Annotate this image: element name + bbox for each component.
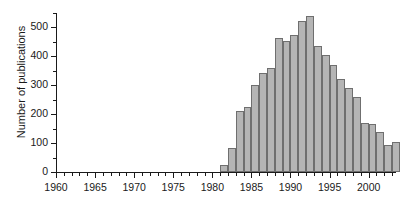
bar (267, 68, 275, 172)
x-tick-minor (126, 173, 127, 176)
x-tick-minor (220, 173, 221, 176)
x-tick-minor (361, 173, 362, 176)
x-tick-minor (228, 173, 229, 176)
y-tick-label: 100 (14, 137, 48, 148)
bar (275, 38, 283, 172)
x-tick-minor (267, 173, 268, 176)
x-tick-label: 1975 (162, 181, 185, 193)
y-tick-label: 200 (14, 108, 48, 119)
bar (314, 46, 322, 172)
x-tick-minor (189, 173, 190, 176)
x-tick-minor (283, 173, 284, 176)
x-tick-minor (103, 173, 104, 176)
x-tick-minor (345, 173, 346, 176)
bar (259, 73, 267, 172)
bar (353, 97, 361, 172)
y-tick-label: 400 (14, 50, 48, 61)
x-tick-minor (165, 173, 166, 176)
x-tick-minor (314, 173, 315, 176)
x-tick-minor (150, 173, 151, 176)
x-tick-minor (275, 173, 276, 176)
x-tick-minor (181, 173, 182, 176)
x-tick-minor (306, 173, 307, 176)
bar (283, 41, 291, 172)
bar (244, 107, 252, 172)
y-tick-label: 300 (14, 79, 48, 90)
bar (330, 65, 338, 172)
x-tick-minor (158, 173, 159, 176)
x-tick-minor (111, 173, 112, 176)
x-tick-label: 1985 (240, 181, 263, 193)
y-tick-label: 0 (14, 166, 48, 177)
x-tick-minor (64, 173, 65, 176)
x-tick-minor (87, 173, 88, 176)
x-tick-minor (244, 173, 245, 176)
y-tick-label: 500 (14, 21, 48, 32)
x-tick-minor (384, 173, 385, 176)
x-tick-minor (236, 173, 237, 176)
x-tick-major (173, 173, 174, 178)
x-tick-minor (205, 173, 206, 176)
x-tick-label: 1980 (201, 181, 224, 193)
x-tick-major (134, 173, 135, 178)
publications-bar-chart: Number of publications 0100200300400500 … (0, 0, 403, 202)
x-tick-major (212, 173, 213, 178)
bar (298, 21, 306, 172)
x-tick-major (290, 173, 291, 178)
x-tick-major (251, 173, 252, 178)
x-tick-label: 1990 (279, 181, 302, 193)
bar (290, 35, 298, 172)
x-tick-major (56, 173, 57, 178)
x-tick-minor (298, 173, 299, 176)
x-tick-minor (259, 173, 260, 176)
x-tick-minor (376, 173, 377, 176)
bar (384, 145, 392, 172)
x-tick-minor (392, 173, 393, 176)
bar (392, 142, 400, 172)
x-tick-label: 2000 (357, 181, 380, 193)
bar (220, 165, 228, 172)
x-tick-minor (337, 173, 338, 176)
x-tick-major (330, 173, 331, 178)
bar (251, 85, 259, 172)
x-tick-major (95, 173, 96, 178)
x-tick-major (369, 173, 370, 178)
x-tick-minor (322, 173, 323, 176)
x-tick-minor (119, 173, 120, 176)
bar-series (56, 13, 396, 172)
bar (361, 123, 369, 172)
bar (228, 148, 236, 172)
x-tick-minor (353, 173, 354, 176)
bar (322, 55, 330, 172)
x-tick-label: 1965 (83, 181, 106, 193)
x-tick-label: 1995 (318, 181, 341, 193)
bar (236, 111, 244, 172)
x-tick-label: 1960 (44, 181, 67, 193)
bar (306, 16, 314, 172)
x-tick-minor (197, 173, 198, 176)
bar (337, 79, 345, 172)
bar (376, 132, 384, 172)
x-tick-label: 1970 (122, 181, 145, 193)
x-tick-minor (142, 173, 143, 176)
x-tick-minor (72, 173, 73, 176)
bar (369, 124, 377, 172)
x-tick-minor (79, 173, 80, 176)
bar (345, 88, 353, 172)
